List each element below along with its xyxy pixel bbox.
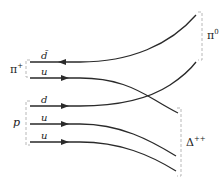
quark-label-u: u [41, 130, 47, 141]
arrow-right-icon [61, 75, 69, 81]
particle-label-delta: Δ++ [186, 135, 206, 149]
particle-label-pi-plus: π+ [10, 62, 23, 76]
arrow-right-icon [61, 121, 69, 127]
pi-plus-bracket [26, 60, 30, 77]
quark-line-dbar [30, 15, 196, 62]
particle-label-proton: p [13, 116, 20, 129]
quark-line-u-pion [30, 78, 178, 113]
particle-label-pi-zero: π0 [207, 28, 219, 42]
quark-line-u-2 [30, 142, 176, 171]
delta-bracket [177, 108, 181, 176]
quark-label-u: u [41, 112, 47, 123]
proton-bracket [26, 101, 30, 145]
quark-line-d [30, 62, 196, 106]
arrow-left-icon [58, 59, 66, 65]
quark-flow-diagram: d̄ u d u u π+ p π0 Δ++ [0, 0, 224, 184]
quark-label-dbar: d̄ [41, 50, 49, 61]
quark-line-u-1 [30, 124, 176, 156]
arrow-right-icon [61, 139, 69, 145]
arrow-right-icon [61, 103, 69, 109]
quark-label-d: d [41, 94, 47, 105]
quark-label-u: u [41, 66, 47, 77]
pi-zero-bracket [198, 12, 202, 60]
